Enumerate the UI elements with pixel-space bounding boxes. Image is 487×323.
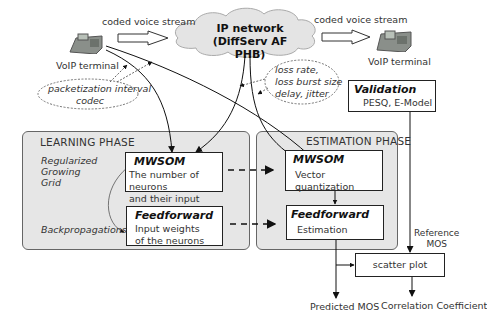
learning-feedforward-line1: Input weights	[135, 223, 204, 235]
params-right-line3: delay, jitter	[275, 88, 342, 100]
learning-feedforward-box: Feedforward Input weights of the neurons	[126, 206, 223, 246]
estimation-feedforward-title: Feedforward	[291, 208, 369, 221]
reference-mos-line1: Reference	[414, 228, 459, 239]
validation-title: Validation	[354, 83, 416, 96]
correlation-coefficient-label: Correlation Coefficient	[381, 300, 487, 311]
voice-stream-arrow-right	[322, 30, 370, 44]
label-backpropagations: Backpropagations	[41, 224, 127, 235]
predicted-mos-label: Predicted MOS	[310, 301, 379, 312]
learning-mwsom-line1: The number of neurons	[129, 169, 222, 193]
ip-network-line1: IP network	[200, 22, 300, 35]
estimation-mwsom-box: MWSOM Vector quantization	[285, 150, 383, 191]
learning-mwsom-title: MWSOM	[134, 155, 185, 168]
learning-feedforward-body: Input weights of the neurons	[135, 223, 204, 247]
params-right: loss rate, loss burst size delay, jitter	[275, 64, 342, 100]
learning-feedforward-title: Feedforward	[135, 209, 213, 222]
learning-mwsom-box: MWSOM The number of neurons and their in…	[125, 152, 223, 192]
reference-mos-label: Reference MOS	[414, 228, 459, 250]
params-left-line1: packetization interval	[48, 83, 132, 95]
validation-body: PESQ, E-Model	[363, 97, 432, 109]
label-growing: Growing	[41, 166, 97, 177]
voip-terminal-left-label: VoIP terminal	[56, 60, 119, 71]
scatter-plot-box: scatter plot	[355, 253, 445, 277]
voice-stream-label-right: coded voice stream	[314, 14, 407, 25]
ip-network-line2: (DiffServ AF PHB)	[200, 35, 300, 61]
voip-terminal-right-label: VoIP terminal	[368, 56, 431, 67]
label-grid: Grid	[41, 177, 97, 188]
estimation-mwsom-title: MWSOM	[293, 153, 344, 166]
voip-terminal-left-phone-icon	[66, 32, 106, 54]
estimation-mwsom-body: Vector quantization	[295, 169, 382, 193]
estimation-feedforward-box: Feedforward Estimation	[286, 205, 384, 240]
estimation-feedforward-body: Estimation	[297, 224, 348, 236]
reference-mos-line2: MOS	[414, 239, 459, 250]
params-left: packetization interval codec	[48, 83, 132, 107]
params-right-line2: loss burst size	[275, 76, 342, 88]
ip-network-title: IP network (DiffServ AF PHB)	[200, 22, 300, 61]
params-left-line2: codec	[48, 95, 132, 107]
voice-stream-arrow-left	[118, 31, 168, 45]
learning-feedforward-line2: of the neurons	[135, 235, 204, 247]
params-right-line1: loss rate,	[275, 64, 342, 76]
voip-terminal-right-phone-icon	[375, 28, 415, 52]
voice-stream-label-left: coded voice stream	[102, 16, 195, 27]
learning-side-labels: Regularized Growing Grid	[41, 155, 97, 188]
scatter-plot-label: scatter plot	[356, 259, 444, 271]
label-regularized: Regularized	[41, 155, 97, 166]
estimation-phase-title: ESTIMATION PHASE	[306, 135, 411, 147]
validation-box: Validation PESQ, E-Model	[348, 80, 436, 112]
learning-phase-title: LEARNING PHASE	[40, 136, 135, 148]
